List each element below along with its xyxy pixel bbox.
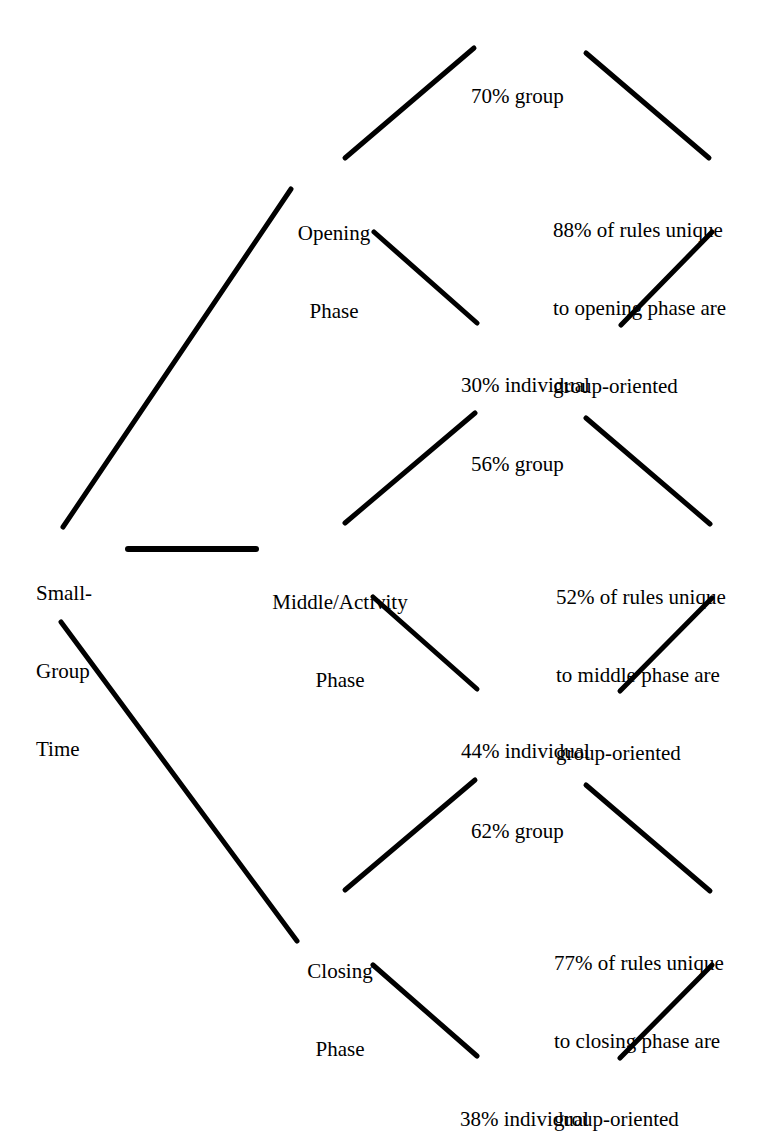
edge-middle-to-group [345, 413, 475, 523]
node-opening-summary-line-3: group-oriented [553, 373, 775, 399]
node-closing-summary-line-3: group-oriented [554, 1106, 776, 1132]
node-opening-summary-line-1: 88% of rules unique [553, 217, 775, 243]
node-opening-phase-line-2: Phase [286, 298, 382, 324]
node-root-line-3: Time [36, 736, 146, 762]
node-root-line-2: Group [36, 658, 146, 684]
edge-root-to-opening [63, 189, 291, 527]
node-middle-phase[interactable]: Middle/Activity Phase [264, 537, 416, 745]
edge-opening-to-individual [374, 232, 477, 323]
node-middle-phase-line-2: Phase [264, 667, 416, 693]
node-closing-summary-line-1: 77% of rules unique [554, 950, 776, 976]
node-root[interactable]: Small- Group Time [36, 528, 146, 814]
node-closing-summary[interactable]: 77% of rules unique to closing phase are… [554, 898, 776, 1135]
node-middle-group-label: 56% group [471, 451, 621, 477]
node-root-line-1: Small- [36, 580, 146, 606]
edge-closing-to-individual [373, 965, 477, 1056]
node-closing-phase-line-2: Phase [292, 1036, 388, 1062]
node-middle-group[interactable]: 56% group [471, 399, 621, 529]
node-opening-summary-line-2: to opening phase are [553, 295, 775, 321]
node-middle-summary-line-1: 52% of rules unique [556, 584, 778, 610]
node-opening-group-label: 70% group [471, 83, 621, 109]
edge-opening-to-group [345, 48, 474, 158]
node-closing-group-label: 62% group [471, 818, 621, 844]
node-closing-phase[interactable]: Closing Phase [292, 906, 388, 1114]
node-opening-phase-line-1: Opening [286, 220, 382, 246]
node-opening-group[interactable]: 70% group [471, 31, 621, 161]
node-closing-summary-line-2: to closing phase are [554, 1028, 776, 1054]
node-opening-phase[interactable]: Opening Phase [286, 168, 382, 376]
node-closing-phase-line-1: Closing [292, 958, 388, 984]
node-middle-summary-line-2: to middle phase are [556, 662, 778, 688]
node-middle-phase-line-1: Middle/Activity [264, 589, 416, 615]
edge-closing-to-group [345, 780, 475, 890]
node-middle-summary-line-3: group-oriented [556, 740, 778, 766]
node-closing-group[interactable]: 62% group [471, 766, 621, 896]
